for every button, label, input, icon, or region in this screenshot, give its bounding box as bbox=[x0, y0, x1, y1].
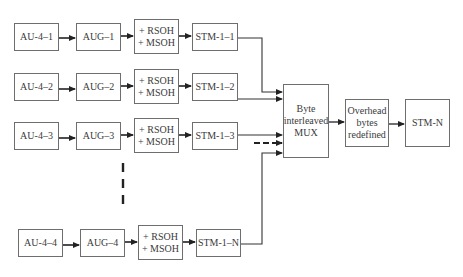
msoh-label: + MSOH bbox=[138, 37, 175, 49]
rsoh-msoh-1-box: + RSOH+ MSOH bbox=[134, 19, 179, 54]
byte-interleaved-mux-box: ByteinterleavedMUX bbox=[283, 84, 329, 158]
mux-label-line3: MUX bbox=[294, 127, 317, 139]
rsoh-msoh-3-box: + RSOH+ MSOH bbox=[134, 118, 179, 153]
mux-label-line1: Byte bbox=[297, 103, 316, 115]
mux-label-line2: interleaved bbox=[284, 115, 328, 127]
overhead-label-line3: redefined bbox=[348, 129, 386, 141]
rsoh-msoh-4-box: + RSOH+ MSOH bbox=[138, 225, 183, 260]
aug-4-label: AUG–4 bbox=[87, 237, 119, 249]
au4-4-label: AU-4–4 bbox=[24, 237, 57, 249]
aug-2-box: AUG–2 bbox=[76, 73, 121, 101]
aug-1-box: AUG–1 bbox=[76, 23, 121, 51]
msoh-label: + MSOH bbox=[138, 87, 175, 99]
rsoh-label: + RSOH bbox=[139, 124, 174, 136]
stm1-3-label: STM-1–3 bbox=[196, 130, 235, 142]
au4-3-box: AU-4–3 bbox=[14, 122, 59, 150]
au4-3-label: AU-4–3 bbox=[20, 130, 53, 142]
rsoh-label: + RSOH bbox=[143, 231, 178, 243]
overhead-label-line1: Overhead bbox=[348, 105, 387, 117]
au4-4-box: AU-4–4 bbox=[18, 229, 63, 257]
stm1-1-box: STM-1–1 bbox=[192, 23, 238, 51]
stm1-3-box: STM-1–3 bbox=[192, 122, 238, 150]
aug-2-label: AUG–2 bbox=[83, 81, 115, 93]
stm1-n-label: STM-1–N bbox=[198, 237, 239, 249]
rsoh-label: + RSOH bbox=[139, 75, 174, 87]
stm-n-label: STM-N bbox=[412, 117, 443, 129]
rsoh-label: + RSOH bbox=[139, 25, 174, 37]
stm-n-box: STM-N bbox=[405, 99, 450, 147]
au4-2-box: AU-4–2 bbox=[14, 73, 59, 101]
msoh-label: + MSOH bbox=[138, 136, 175, 148]
stm1-1-label: STM-1–1 bbox=[196, 31, 235, 43]
stm1-2-label: STM-1–2 bbox=[196, 81, 235, 93]
stm1-2-box: STM-1–2 bbox=[192, 73, 238, 101]
aug-3-label: AUG–3 bbox=[83, 130, 115, 142]
au4-2-label: AU-4–2 bbox=[20, 81, 53, 93]
aug-3-box: AUG–3 bbox=[76, 122, 121, 150]
rsoh-msoh-2-box: + RSOH+ MSOH bbox=[134, 69, 179, 104]
au4-1-label: AU-4–1 bbox=[20, 31, 53, 43]
overhead-redefined-box: Overheadbytesredefined bbox=[345, 99, 389, 147]
msoh-label: + MSOH bbox=[142, 243, 179, 255]
stm1-n-box: STM-1–N bbox=[196, 229, 241, 257]
au4-1-box: AU-4–1 bbox=[14, 23, 59, 51]
aug-4-box: AUG–4 bbox=[80, 229, 125, 257]
overhead-label-line2: bytes bbox=[356, 117, 377, 129]
aug-1-label: AUG–1 bbox=[83, 31, 115, 43]
